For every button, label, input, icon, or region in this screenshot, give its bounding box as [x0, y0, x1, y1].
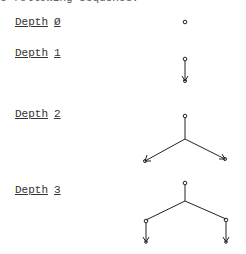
depth-2-tree — [144, 114, 227, 162]
depth-1-tree — [182, 57, 188, 82]
node — [183, 20, 187, 24]
depth-3-tree — [143, 181, 229, 243]
tree-diagrams — [0, 0, 246, 254]
